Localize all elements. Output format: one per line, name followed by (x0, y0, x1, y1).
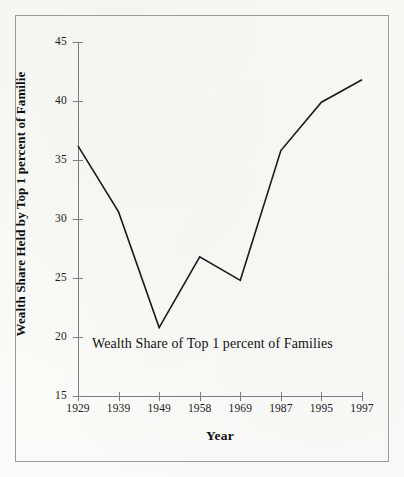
figure-page: 45403530252015 1929193919491958196919871… (0, 0, 404, 477)
series-line-path (78, 80, 362, 328)
series-line-chart (0, 0, 404, 477)
